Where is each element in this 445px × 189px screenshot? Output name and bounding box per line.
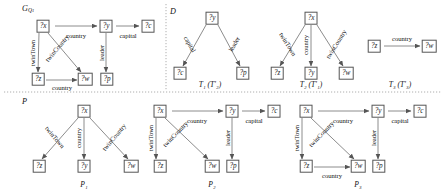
- p1-node-z: ?z: [33, 160, 46, 173]
- gq1-edge-leader-label: leader: [98, 45, 105, 61]
- gq1-node-p: ?p: [100, 73, 113, 86]
- p3-edge-capital-label: capital: [391, 117, 408, 124]
- p3-edge-twinTown-label: twinTown: [293, 125, 300, 151]
- p3-node-c: ?c: [414, 105, 427, 118]
- gq1-node-x: ?x: [37, 20, 50, 33]
- p3-edge-country-label: country: [333, 117, 353, 124]
- gq1-edge-twinTown-line: [38, 33, 39, 72]
- p2-node-x: ?x: [154, 105, 167, 118]
- p1-node-y: ?y: [78, 160, 91, 173]
- gq1-edge-capital-label: capital: [119, 32, 136, 39]
- p2-edge-country-label: country: [187, 117, 207, 124]
- p3-node-z: ?z: [300, 160, 313, 173]
- gq1-edge-twinTown-label: twinTown: [29, 40, 36, 66]
- t2-node-z: ?z: [271, 67, 284, 80]
- caption-p1: P₁: [80, 180, 87, 189]
- p2-edge-leader-label: leader: [224, 130, 231, 146]
- p2-node-p: ?p: [226, 160, 239, 173]
- t1-node-y: ?y: [206, 12, 219, 25]
- p3-edge-leader-label: leader: [370, 130, 377, 146]
- p2-node-y: ?y: [226, 105, 239, 118]
- p2-edge-twinTown-label: twinTown: [147, 125, 154, 151]
- gq1-node-w: ?w: [78, 73, 93, 86]
- p1-node-x: ?x: [78, 105, 91, 118]
- t1-node-c: ?c: [174, 67, 187, 80]
- gq1-node-y: ?y: [100, 20, 113, 33]
- p3-node-p: ?p: [372, 160, 385, 173]
- figure-root: ?x?y?c?z?w?p?y?c?p?x?z?y?w?z?w?x?z?y?w?x…: [0, 0, 445, 189]
- caption-p3: P₃: [354, 180, 361, 189]
- gq1-node-z: ?z: [32, 73, 45, 86]
- gq1-node-c: ?c: [142, 20, 155, 33]
- p2-node-z: ?z: [154, 160, 167, 173]
- p2-node-c: ?c: [268, 105, 281, 118]
- t2-node-y: ?y: [305, 67, 318, 80]
- t3-node-z: ?z: [368, 40, 381, 53]
- t2-edge-country-label: country: [302, 35, 309, 55]
- caption-t2: T₂ (T′₁): [300, 80, 322, 89]
- panel-title-gq1: GQ1: [22, 4, 34, 13]
- p3-edge-country2-label: country: [322, 172, 342, 179]
- p3-node-w: ?w: [351, 160, 366, 173]
- p2-edge-capital-label: capital: [245, 117, 262, 124]
- p3-node-x: ?x: [300, 105, 313, 118]
- t1-node-p: ?p: [236, 67, 249, 80]
- t2-node-x: ?x: [305, 12, 318, 25]
- t2-node-w: ?w: [339, 67, 354, 80]
- p1-edge-country-label: country: [75, 128, 82, 148]
- gq1-edge-country2-label: country: [52, 84, 72, 91]
- p3-node-y: ?y: [372, 105, 385, 118]
- t3-node-w: ?w: [422, 40, 437, 53]
- t3-edge-country-label: country: [392, 35, 412, 42]
- caption-t3: T₃ (T′₃): [389, 80, 411, 89]
- panel-title-p: P: [22, 97, 27, 106]
- panel-title-d: D: [170, 7, 176, 16]
- p2-node-w: ?w: [205, 160, 220, 173]
- caption-p2: P₂: [208, 180, 215, 189]
- caption-t1: T₁ (T′₂): [199, 80, 221, 89]
- p1-node-w: ?w: [124, 160, 139, 173]
